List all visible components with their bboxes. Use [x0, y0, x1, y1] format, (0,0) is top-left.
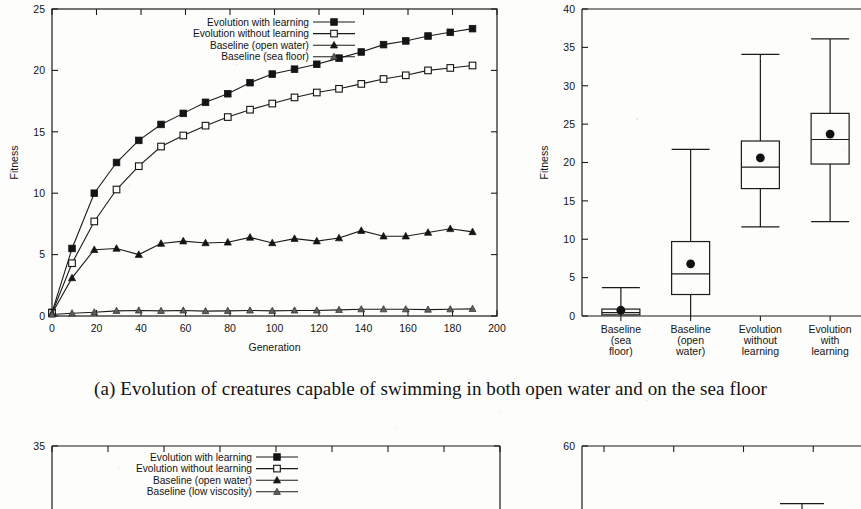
- marker-filled-triangle: [113, 245, 120, 252]
- marker-open-square: [113, 186, 120, 193]
- y-tick-label: 20: [33, 64, 45, 76]
- chart-panel-b-right-cropped: 5060: [530, 430, 861, 509]
- marker-open-square: [331, 30, 338, 37]
- marker-open-square: [274, 465, 281, 472]
- marker-filled-square: [402, 38, 409, 45]
- marker-open-square: [180, 132, 187, 139]
- y-tick-label: 0: [569, 310, 575, 322]
- marker-filled-square: [91, 190, 98, 197]
- marker-open-square: [358, 81, 365, 88]
- marker-open-square: [425, 67, 432, 74]
- legend-item-1: Evolution without learning: [136, 463, 298, 474]
- marker-filled-square: [180, 110, 187, 117]
- y-tick-label: 35: [33, 440, 45, 452]
- legend-label: Baseline (low viscosity): [147, 486, 252, 497]
- y-tick-label: 15: [563, 195, 575, 207]
- x-tick-label: 100: [266, 322, 284, 334]
- y-tick-label: 10: [33, 187, 45, 199]
- x-tick-label: 80: [224, 322, 236, 334]
- legend-label: Baseline (sea floor): [221, 51, 309, 62]
- marker-open-square: [313, 89, 320, 96]
- marker-open-square: [380, 76, 387, 83]
- marker-filled-square: [425, 33, 432, 40]
- marker-open-square: [402, 72, 409, 79]
- legend-item-0: Evolution with learning: [150, 452, 298, 463]
- marker-filled-triangle: [358, 227, 365, 234]
- marker-filled-square: [113, 159, 120, 166]
- x-axis-title: Generation: [249, 341, 301, 353]
- marker-open-square: [91, 218, 98, 225]
- chart-panel-fitness-boxplot: 0510152025303540FitnessBaseline(seafloor…: [530, 0, 861, 378]
- marker-open-square: [447, 65, 454, 72]
- legend-label: Baseline (open water): [210, 40, 309, 51]
- y-tick-label: 10: [563, 233, 575, 245]
- boxplot-1: [780, 504, 824, 509]
- marker-filled-square: [447, 29, 454, 36]
- marker-open-square: [69, 260, 76, 267]
- x-tick-label: 40: [135, 322, 147, 334]
- figure-caption-a: (a) Evolution of creatures capable of sw…: [0, 378, 861, 400]
- boxplot-3: [811, 39, 849, 321]
- legend-item-2: Baseline (open water): [210, 40, 355, 51]
- marker-filled-triangle: [246, 234, 253, 241]
- series-line-0: [52, 29, 473, 313]
- x-category-label: learning: [742, 345, 780, 357]
- x-category-label: floor): [609, 345, 633, 357]
- legend-item-3: Baseline (sea floor): [221, 51, 355, 62]
- marker-filled-square: [202, 99, 209, 106]
- marker-filled-triangle: [291, 235, 298, 242]
- chart-panel-b-left-cropped: 3035Evolution with learningEvolution wit…: [0, 430, 530, 509]
- mean-marker: [686, 259, 695, 268]
- marker-filled-square: [291, 66, 298, 73]
- x-tick-label: 120: [310, 322, 328, 334]
- y-tick-label: 20: [563, 156, 575, 168]
- marker-filled-square: [269, 71, 276, 78]
- x-tick-label: 140: [355, 322, 373, 334]
- boxplot-1: [672, 149, 710, 321]
- x-tick-label: 20: [91, 322, 103, 334]
- y-axis-title: Fitness: [538, 146, 550, 180]
- y-tick-label: 25: [563, 118, 575, 130]
- y-tick-label: 0: [39, 310, 45, 322]
- marker-open-square: [158, 143, 165, 150]
- legend-label: Baseline (open water): [153, 475, 252, 486]
- marker-filled-square: [224, 90, 231, 97]
- scan-speckle: [760, 58, 762, 59]
- y-tick-label: 30: [563, 80, 575, 92]
- boxplot-2: [741, 54, 779, 321]
- marker-filled-triangle: [447, 225, 454, 232]
- y-tick-label: 25: [33, 3, 45, 15]
- y-tick-label: 40: [563, 3, 575, 15]
- marker-open-square: [469, 62, 476, 69]
- marker-filled-square: [247, 79, 254, 86]
- x-tick-label: 0: [49, 322, 55, 334]
- scan-speckle: [455, 222, 457, 223]
- marker-filled-square: [380, 41, 387, 48]
- marker-filled-square: [158, 121, 165, 128]
- scan-speckle: [128, 185, 130, 186]
- marker-open-square: [291, 94, 298, 101]
- mean-marker: [756, 153, 765, 162]
- legend-label: Evolution with learning: [207, 17, 309, 28]
- line-chart-svg: 0510152025020406080100120140160180200Gen…: [0, 0, 530, 378]
- scan-speckle: [236, 64, 238, 65]
- x-category-label: water): [675, 345, 705, 357]
- mean-marker: [826, 130, 835, 139]
- scan-speckle: [300, 342, 302, 343]
- legend-label: Evolution without learning: [193, 28, 309, 39]
- x-tick-label: 200: [488, 322, 506, 334]
- scan-speckle: [636, 118, 638, 120]
- marker-filled-square: [331, 19, 338, 26]
- scan-speckle: [842, 150, 844, 151]
- scan-speckle: [500, 412, 502, 413]
- scan-speckle: [690, 292, 692, 293]
- y-tick-label: 15: [33, 126, 45, 138]
- marker-filled-square: [358, 49, 365, 56]
- y-tick-label: 35: [563, 41, 575, 53]
- y-tick-label: 60: [563, 440, 575, 452]
- scan-speckle: [646, 400, 648, 401]
- legend-item-3: Baseline (low viscosity): [147, 486, 298, 497]
- marker-open-square: [247, 106, 254, 113]
- box-iqr: [811, 113, 849, 164]
- figure-page: 0510152025020406080100120140160180200Gen…: [0, 0, 861, 509]
